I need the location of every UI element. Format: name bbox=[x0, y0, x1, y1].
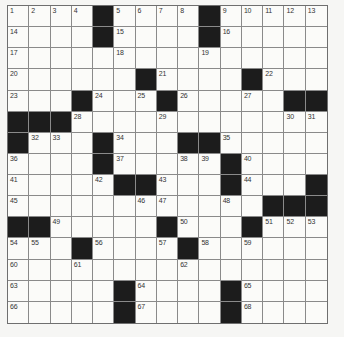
grid-cell[interactable]: 25 bbox=[136, 91, 157, 112]
grid-cell[interactable]: 53 bbox=[306, 217, 327, 238]
grid-cell[interactable]: 19 bbox=[199, 48, 220, 69]
grid-cell[interactable] bbox=[199, 281, 220, 302]
grid-cell[interactable] bbox=[51, 175, 72, 196]
grid-cell[interactable] bbox=[51, 154, 72, 175]
grid-cell[interactable]: 31 bbox=[306, 112, 327, 133]
grid-cell[interactable] bbox=[221, 91, 242, 112]
grid-cell[interactable] bbox=[178, 302, 199, 323]
grid-cell[interactable] bbox=[242, 112, 263, 133]
grid-cell[interactable] bbox=[306, 27, 327, 48]
grid-cell[interactable]: 40 bbox=[242, 154, 263, 175]
grid-cell[interactable] bbox=[284, 281, 305, 302]
grid-cell[interactable] bbox=[114, 260, 135, 281]
grid-cell[interactable] bbox=[72, 175, 93, 196]
grid-cell[interactable]: 5 bbox=[114, 6, 135, 27]
grid-cell[interactable] bbox=[199, 217, 220, 238]
grid-cell[interactable] bbox=[51, 281, 72, 302]
grid-cell[interactable] bbox=[136, 27, 157, 48]
grid-cell[interactable]: 55 bbox=[29, 238, 50, 259]
grid-cell[interactable] bbox=[284, 133, 305, 154]
grid-cell[interactable]: 11 bbox=[263, 6, 284, 27]
grid-cell[interactable] bbox=[263, 154, 284, 175]
grid-cell[interactable]: 27 bbox=[242, 91, 263, 112]
grid-cell[interactable] bbox=[29, 302, 50, 323]
grid-cell[interactable] bbox=[72, 27, 93, 48]
grid-cell[interactable]: 8 bbox=[178, 6, 199, 27]
grid-cell[interactable] bbox=[157, 48, 178, 69]
grid-cell[interactable]: 49 bbox=[51, 217, 72, 238]
grid-cell[interactable] bbox=[178, 175, 199, 196]
grid-cell[interactable] bbox=[114, 238, 135, 259]
grid-cell[interactable] bbox=[72, 196, 93, 217]
grid-cell[interactable]: 2 bbox=[29, 6, 50, 27]
grid-cell[interactable]: 12 bbox=[284, 6, 305, 27]
grid-cell[interactable] bbox=[306, 154, 327, 175]
grid-cell[interactable] bbox=[263, 238, 284, 259]
grid-cell[interactable]: 33 bbox=[51, 133, 72, 154]
grid-cell[interactable] bbox=[242, 260, 263, 281]
grid-cell[interactable] bbox=[72, 133, 93, 154]
grid-cell[interactable] bbox=[29, 69, 50, 90]
grid-cell[interactable]: 13 bbox=[306, 6, 327, 27]
grid-cell[interactable] bbox=[136, 238, 157, 259]
grid-cell[interactable] bbox=[306, 302, 327, 323]
grid-cell[interactable] bbox=[93, 260, 114, 281]
grid-cell[interactable]: 38 bbox=[178, 154, 199, 175]
grid-cell[interactable]: 47 bbox=[157, 196, 178, 217]
grid-cell[interactable]: 26 bbox=[178, 91, 199, 112]
grid-cell[interactable]: 39 bbox=[199, 154, 220, 175]
grid-cell[interactable] bbox=[306, 48, 327, 69]
grid-cell[interactable] bbox=[114, 217, 135, 238]
grid-cell[interactable] bbox=[242, 48, 263, 69]
grid-cell[interactable] bbox=[114, 91, 135, 112]
grid-cell[interactable] bbox=[136, 133, 157, 154]
grid-cell[interactable] bbox=[72, 217, 93, 238]
grid-cell[interactable]: 24 bbox=[93, 91, 114, 112]
grid-cell[interactable] bbox=[178, 27, 199, 48]
grid-cell[interactable] bbox=[93, 69, 114, 90]
grid-cell[interactable] bbox=[136, 48, 157, 69]
grid-cell[interactable] bbox=[306, 69, 327, 90]
grid-cell[interactable]: 18 bbox=[114, 48, 135, 69]
grid-cell[interactable] bbox=[199, 91, 220, 112]
grid-cell[interactable] bbox=[263, 48, 284, 69]
grid-cell[interactable] bbox=[284, 260, 305, 281]
grid-cell[interactable] bbox=[284, 48, 305, 69]
grid-cell[interactable] bbox=[51, 91, 72, 112]
grid-cell[interactable]: 30 bbox=[284, 112, 305, 133]
grid-cell[interactable]: 58 bbox=[199, 238, 220, 259]
grid-cell[interactable]: 54 bbox=[8, 238, 29, 259]
grid-cell[interactable] bbox=[29, 260, 50, 281]
grid-cell[interactable]: 37 bbox=[114, 154, 135, 175]
grid-cell[interactable]: 42 bbox=[93, 175, 114, 196]
grid-cell[interactable] bbox=[51, 69, 72, 90]
grid-cell[interactable] bbox=[178, 69, 199, 90]
grid-cell[interactable]: 6 bbox=[136, 6, 157, 27]
grid-cell[interactable] bbox=[157, 133, 178, 154]
grid-cell[interactable]: 45 bbox=[8, 196, 29, 217]
grid-cell[interactable] bbox=[263, 281, 284, 302]
grid-cell[interactable]: 20 bbox=[8, 69, 29, 90]
grid-cell[interactable] bbox=[93, 217, 114, 238]
grid-cell[interactable]: 21 bbox=[157, 69, 178, 90]
grid-cell[interactable] bbox=[199, 196, 220, 217]
grid-cell[interactable] bbox=[263, 302, 284, 323]
grid-cell[interactable]: 36 bbox=[8, 154, 29, 175]
grid-cell[interactable] bbox=[114, 69, 135, 90]
grid-cell[interactable] bbox=[29, 196, 50, 217]
grid-cell[interactable] bbox=[29, 281, 50, 302]
grid-cell[interactable] bbox=[72, 154, 93, 175]
grid-cell[interactable]: 32 bbox=[29, 133, 50, 154]
grid-cell[interactable] bbox=[284, 69, 305, 90]
grid-cell[interactable]: 16 bbox=[221, 27, 242, 48]
grid-cell[interactable]: 43 bbox=[157, 175, 178, 196]
grid-cell[interactable] bbox=[221, 260, 242, 281]
grid-cell[interactable] bbox=[263, 27, 284, 48]
grid-cell[interactable] bbox=[284, 154, 305, 175]
grid-cell[interactable] bbox=[178, 196, 199, 217]
grid-cell[interactable] bbox=[51, 48, 72, 69]
grid-cell[interactable] bbox=[199, 302, 220, 323]
grid-cell[interactable]: 28 bbox=[72, 112, 93, 133]
grid-cell[interactable] bbox=[51, 196, 72, 217]
grid-cell[interactable] bbox=[72, 281, 93, 302]
